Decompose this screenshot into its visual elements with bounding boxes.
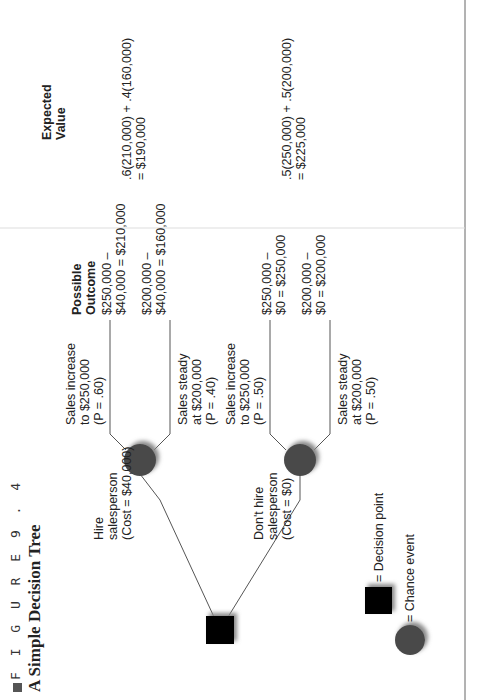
chance-node-nohire [284, 444, 316, 476]
outcome: $200,000 – $40,000 = $160,000 [140, 203, 168, 315]
legend-chance: = Chance event [403, 534, 417, 622]
ev-hire: .6(210,000) + .4(160,000) = $190,000 [120, 38, 148, 180]
ev-nohire: .5(250,000) + .5(200,000) = $225,000 [280, 38, 308, 180]
decision-tree-figure: F I G U R E 9 . 4 A Simple Decision Tree… [0, 0, 489, 700]
legend-circle-icon [395, 625, 425, 655]
decision-node [206, 616, 234, 644]
legend-decision: = Decision point [372, 493, 386, 582]
branch-label: Sales increase to $250,000 (P = .50) [224, 343, 266, 425]
ev-header: Expected Value [40, 84, 68, 140]
outcome-header: Possible Outcome [70, 261, 98, 315]
nohire-label: Don't hire salesperson (Cost = $0) [252, 473, 294, 540]
branch-label: Sales increase to $250,000 (P = .60) [64, 343, 106, 425]
branch-label: Sales steady at $200,000 (P = .40) [176, 353, 218, 425]
outcome: $250,000 – $0 = $250,000 [260, 235, 288, 315]
branch-label: Sales steady at $200,000 (P = .50) [336, 353, 378, 425]
hire-label: Hire salesperson (Cost = $40,000) [92, 447, 134, 540]
outcome: $200,000 – $0 = $200,000 [300, 235, 328, 315]
legend-square-icon [365, 587, 392, 614]
outcome: $250,000 – $40,000 = $210,000 [100, 203, 128, 315]
